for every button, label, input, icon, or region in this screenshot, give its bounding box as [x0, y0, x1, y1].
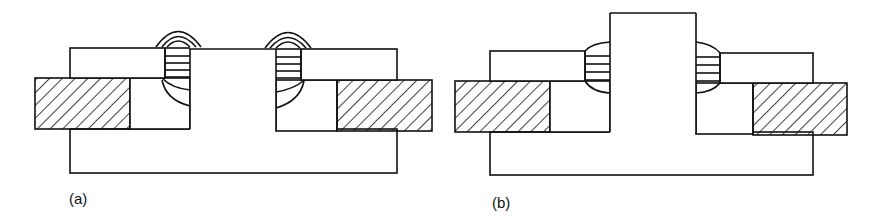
base-plate: [490, 132, 813, 175]
panel-b-label: (b): [492, 194, 510, 211]
left-hatched-plate: [35, 78, 130, 129]
panel-b: [455, 13, 847, 175]
center-stem: [190, 49, 276, 130]
base-plate: [70, 129, 397, 173]
right-inner-block: [696, 83, 753, 134]
right-upper-plate: [720, 53, 813, 83]
right-hatched-plate: [753, 83, 847, 135]
right-inner-block: [276, 80, 337, 131]
left-hatched-plate: [455, 81, 550, 132]
panel-a-label: (a): [69, 190, 87, 207]
center-stem: [610, 13, 696, 133]
panel-a: [35, 32, 432, 174]
right-hatched-plate: [337, 80, 432, 131]
left-inner-block: [550, 81, 610, 132]
left-upper-plate: [490, 51, 585, 81]
figure-canvas: [0, 0, 880, 224]
right-upper-plate: [301, 49, 397, 80]
left-upper-plate: [70, 48, 165, 78]
